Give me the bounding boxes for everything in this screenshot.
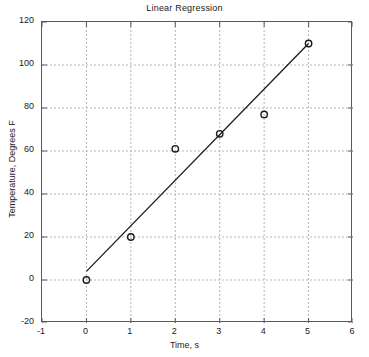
y-tick-label: 120 xyxy=(0,15,34,25)
plot-area xyxy=(41,21,352,322)
y-tick-label: -20 xyxy=(0,316,34,326)
x-tick-label: 5 xyxy=(295,326,321,336)
x-tick-label: 4 xyxy=(250,326,276,336)
chart-figure: Linear Regression -20020406080100120 -10… xyxy=(0,0,369,357)
chart-title: Linear Regression xyxy=(0,3,369,13)
y-axis-label-wrapper: Temperature, Degrees F xyxy=(7,79,21,259)
y-tick-label: 0 xyxy=(0,273,34,283)
x-tick-label: 6 xyxy=(339,326,365,336)
y-tick-label: 100 xyxy=(0,58,34,68)
x-tick-label: 3 xyxy=(206,326,232,336)
x-tick-label: 0 xyxy=(72,326,98,336)
data-markers xyxy=(83,40,312,283)
y-axis-label: Temperature, Degrees F xyxy=(7,79,17,259)
x-tick-label: 1 xyxy=(117,326,143,336)
plot-svg xyxy=(42,22,353,323)
x-axis-label: Time, s xyxy=(0,340,369,350)
x-tick-label: 2 xyxy=(161,326,187,336)
x-tick-label: -1 xyxy=(28,326,54,336)
